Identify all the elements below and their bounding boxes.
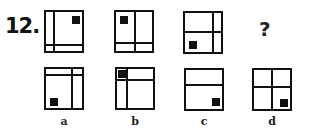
divider-horizontal (116, 42, 152, 44)
black-square-icon (212, 98, 220, 106)
option-label-c[interactable]: c (198, 115, 210, 128)
sequence-figure-2 (114, 10, 154, 53)
option-label-a[interactable]: a (58, 115, 70, 128)
black-square-icon (189, 41, 197, 49)
divider-vertical (134, 12, 136, 51)
option-label-d[interactable]: d (266, 115, 278, 128)
sequence-figure-3 (183, 11, 223, 54)
divider-vertical (126, 69, 128, 108)
option-figure-c[interactable] (184, 68, 224, 111)
black-square-icon (280, 99, 288, 107)
divider-horizontal (117, 79, 153, 81)
divider-horizontal (46, 74, 82, 76)
sequence-figure-1 (44, 10, 84, 53)
option-label-b[interactable]: b (129, 115, 141, 128)
divider-horizontal (254, 86, 290, 88)
divider-horizontal (185, 31, 221, 33)
option-figure-b[interactable] (115, 67, 155, 110)
question-number: 12. (5, 14, 39, 38)
black-square-icon (118, 70, 126, 78)
option-figure-a[interactable] (44, 67, 84, 110)
black-square-icon (50, 98, 58, 106)
black-square-icon (120, 16, 128, 24)
missing-figure-marker: ? (259, 17, 271, 41)
divider-vertical (71, 69, 73, 108)
divider-vertical (271, 70, 273, 109)
black-square-icon (72, 16, 80, 24)
divider-horizontal (186, 84, 222, 86)
option-figure-d[interactable] (252, 68, 292, 111)
divider-horizontal (46, 44, 82, 46)
